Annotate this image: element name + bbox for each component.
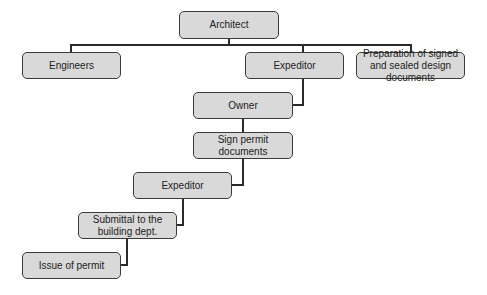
node-expeditor: Expeditor: [245, 52, 344, 79]
connector: [302, 44, 304, 52]
connector: [126, 238, 128, 266]
node-preparation: Preparation of signed and sealed design …: [356, 52, 465, 79]
connector: [242, 118, 244, 132]
node-architect: Architect: [179, 11, 279, 39]
connector: [182, 198, 184, 226]
connector: [242, 158, 244, 186]
connector: [120, 264, 128, 266]
connector: [231, 184, 244, 186]
node-engineers: Engineers: [22, 52, 121, 79]
connector: [292, 104, 304, 106]
node-owner: Owner: [193, 92, 293, 119]
node-submittal: Submittal to the building dept.: [78, 212, 177, 239]
node-issue-permit: Issue of permit: [22, 252, 121, 279]
connector: [70, 44, 412, 46]
connector: [70, 44, 72, 52]
connector: [176, 224, 184, 226]
connector: [302, 78, 304, 106]
node-sign-permit: Sign permit documents: [193, 132, 293, 159]
node-expeditor-2: Expeditor: [133, 172, 232, 199]
